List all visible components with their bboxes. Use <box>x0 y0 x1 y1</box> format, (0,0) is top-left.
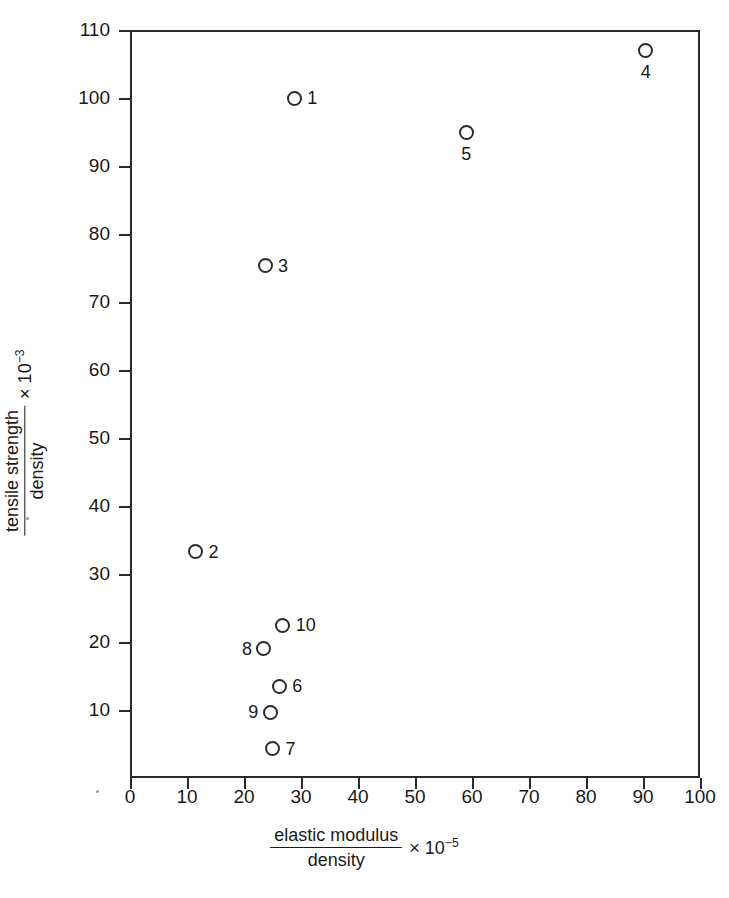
data-point-label: 5 <box>458 145 474 163</box>
data-point-label: 1 <box>307 89 317 107</box>
y-axis-tick <box>119 370 130 372</box>
y-axis-tick-label: 80 <box>62 224 110 243</box>
data-point[interactable] <box>275 618 290 633</box>
x-axis-label-numerator: elastic modulus <box>270 825 402 848</box>
y-axis-tick <box>119 166 130 168</box>
y-axis-tick-label: 10 <box>62 700 110 719</box>
y-axis-tick-label: 30 <box>62 564 110 583</box>
x-axis-label-fraction: elastic modulus density <box>270 825 402 870</box>
x-axis-tick-label: 0 <box>100 786 160 808</box>
y-axis-tick-label: 40 <box>62 496 110 515</box>
plot-frame <box>130 30 700 778</box>
y-axis-tick-label: 20 <box>62 632 110 651</box>
data-point[interactable] <box>263 705 278 720</box>
x-axis-label-exponent: −5 <box>445 836 459 850</box>
x-axis-tick-label: 20 <box>214 786 274 808</box>
data-point-label: 8 <box>236 640 252 658</box>
x-axis-label: elastic modulus density × 10−5 <box>0 825 729 870</box>
data-point-label: 9 <box>242 703 258 721</box>
y-axis-label-exponent: −3 <box>14 349 28 363</box>
y-axis-tick <box>119 234 130 236</box>
y-axis-tick-label: 60 <box>62 360 110 379</box>
x-axis-tick-label: 70 <box>499 786 559 808</box>
data-point-label: 3 <box>278 257 288 275</box>
data-point-label: 6 <box>292 677 302 695</box>
y-axis-label-multiplier: × 10−3 <box>14 349 37 399</box>
x-axis-tick-label: 10 <box>157 786 217 808</box>
y-axis-tick-label: 70 <box>62 292 110 311</box>
data-point[interactable] <box>287 91 302 106</box>
y-axis-tick-label: 90 <box>62 156 110 175</box>
data-point-label: 2 <box>209 543 219 561</box>
y-axis-label: tensile strength density × 10−3 <box>2 273 47 613</box>
data-point-label: 7 <box>286 740 296 758</box>
y-axis-tick-label: 50 <box>62 428 110 447</box>
data-point-label: 4 <box>638 63 654 81</box>
y-axis-tick <box>119 506 130 508</box>
scatter-plot-figure: 102030405060708090100110 010203040506070… <box>0 0 729 898</box>
y-axis-tick <box>119 710 130 712</box>
y-axis-label-denominator: density <box>25 438 48 503</box>
y-axis-label-numerator: tensile strength <box>2 406 25 536</box>
x-axis-tick-label: 90 <box>613 786 673 808</box>
data-point[interactable] <box>188 544 203 559</box>
x-axis-tick-label: 30 <box>271 786 331 808</box>
y-axis-tick <box>119 642 130 644</box>
y-axis-tick <box>119 30 130 32</box>
x-axis-tick-label: 80 <box>556 786 616 808</box>
y-axis-tick <box>119 438 130 440</box>
y-axis-tick-label: 100 <box>62 88 110 107</box>
x-axis-tick-label: 40 <box>328 786 388 808</box>
x-axis-label-multiplier: × 10−5 <box>409 836 459 859</box>
data-point[interactable] <box>272 679 287 694</box>
data-point-label: 10 <box>296 616 316 634</box>
y-axis-tick <box>119 302 130 304</box>
x-axis-tick-label: 60 <box>442 786 502 808</box>
x-axis-tick-label: 50 <box>385 786 445 808</box>
stray-speck <box>96 790 99 793</box>
y-axis-tick-label: 110 <box>62 20 110 39</box>
data-point[interactable] <box>258 258 273 273</box>
y-axis-label-fraction: tensile strength density <box>2 406 47 536</box>
x-axis-tick-label: 100 <box>670 786 729 808</box>
data-point[interactable] <box>459 125 474 140</box>
x-axis-label-denominator: density <box>304 848 369 871</box>
y-axis-tick <box>119 574 130 576</box>
y-axis-tick <box>119 98 130 100</box>
